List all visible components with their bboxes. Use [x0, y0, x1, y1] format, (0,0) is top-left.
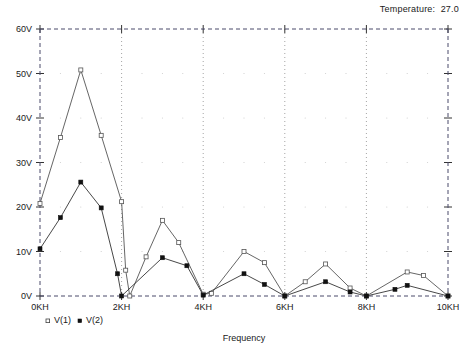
marker-filled-square: [242, 272, 246, 276]
xtick-label: 6KH: [276, 302, 294, 312]
marker-open-square: [348, 286, 352, 290]
marker-filled-square: [160, 256, 164, 260]
marker-filled-square: [79, 180, 83, 184]
marker-filled-square: [324, 280, 328, 284]
grid-dot: [305, 206, 306, 207]
grid-dot: [101, 117, 102, 118]
legend-marker-filled-square: [78, 319, 82, 323]
grid-dot: [325, 206, 326, 207]
grid-dot: [305, 162, 306, 163]
marker-open-square: [324, 262, 328, 266]
grid-dot: [243, 73, 244, 74]
ytick-label: 20V: [16, 202, 32, 212]
grid-dot: [162, 73, 163, 74]
ytick-label: 30V: [16, 158, 32, 168]
grid-dot: [325, 73, 326, 74]
ytick-label: 0V: [21, 291, 32, 301]
grid-dot: [345, 117, 346, 118]
marker-open-square: [242, 250, 246, 254]
ytick-label: 50V: [16, 69, 32, 79]
marker-filled-square: [58, 216, 62, 220]
grid-dot: [80, 117, 81, 118]
grid-dot: [141, 117, 142, 118]
marker-open-square: [144, 255, 148, 259]
marker-filled-square: [283, 294, 287, 298]
grid-dot: [407, 251, 408, 252]
grid-dot: [427, 206, 428, 207]
ytick-label: 60V: [16, 24, 32, 34]
ytick-label: 40V: [16, 113, 32, 123]
marker-filled-square: [262, 282, 266, 286]
grid-dot: [243, 117, 244, 118]
grid-dot: [182, 162, 183, 163]
grid-dot: [80, 73, 81, 74]
grid-dot: [101, 251, 102, 252]
grid-dot: [162, 206, 163, 207]
grid-dot: [345, 162, 346, 163]
grid-dot: [101, 73, 102, 74]
marker-open-square: [422, 274, 426, 278]
grid-dot: [305, 251, 306, 252]
xtick-label: 0KH: [31, 302, 49, 312]
grid-dot: [345, 73, 346, 74]
grid-dot: [427, 162, 428, 163]
marker-filled-square: [446, 294, 450, 298]
grid-dot: [141, 206, 142, 207]
grid-dot: [345, 206, 346, 207]
grid-dot: [264, 162, 265, 163]
marker-open-square: [79, 68, 83, 72]
grid-dot: [386, 206, 387, 207]
marker-open-square: [405, 270, 409, 274]
grid-dot: [345, 251, 346, 252]
marker-open-square: [99, 133, 103, 137]
grid-dot: [162, 162, 163, 163]
grid-dot: [305, 117, 306, 118]
marker-filled-square: [393, 287, 397, 291]
legend-label-V2[interactable]: V(2): [86, 315, 103, 325]
marker-filled-square: [38, 247, 42, 251]
grid-dot: [386, 73, 387, 74]
grid-dot: [141, 162, 142, 163]
series-line-V2: [40, 182, 448, 296]
grid-dot: [325, 251, 326, 252]
data-series-layer: [38, 68, 450, 298]
grid-layer: [60, 29, 428, 296]
grid-dot: [264, 73, 265, 74]
grid-dot: [141, 251, 142, 252]
grid-dot: [305, 73, 306, 74]
grid-dot: [60, 251, 61, 252]
series-line-V1: [40, 70, 448, 296]
marker-open-square: [262, 261, 266, 265]
marker-filled-square: [120, 294, 124, 298]
xtick-label: 2KH: [113, 302, 131, 312]
grid-dot: [427, 117, 428, 118]
grid-dot: [60, 73, 61, 74]
marker-filled-square: [99, 206, 103, 210]
legend-label-V1[interactable]: V(1): [54, 315, 71, 325]
marker-filled-square: [185, 264, 189, 268]
grid-dot: [141, 73, 142, 74]
xtick-label: 8KH: [358, 302, 376, 312]
marker-filled-square: [364, 294, 368, 298]
grid-dot: [223, 251, 224, 252]
grid-dot: [386, 162, 387, 163]
grid-dot: [427, 251, 428, 252]
grid-dot: [182, 206, 183, 207]
grid-dot: [243, 162, 244, 163]
grid-dot: [182, 73, 183, 74]
marker-open-square: [160, 218, 164, 222]
grid-dot: [386, 117, 387, 118]
xtick-label: 4KH: [194, 302, 212, 312]
grid-dot: [80, 251, 81, 252]
grid-dot: [264, 251, 265, 252]
x-axis-title: Frequency: [223, 333, 266, 343]
marker-open-square: [177, 241, 181, 245]
chart-legend: V(1)V(2): [46, 315, 103, 325]
marker-open-square: [128, 294, 132, 298]
grid-dot: [80, 206, 81, 207]
temperature-label: Temperature: 27.0: [380, 4, 459, 14]
grid-dot: [407, 117, 408, 118]
grid-dot: [223, 206, 224, 207]
marker-filled-square: [348, 290, 352, 294]
grid-dot: [162, 117, 163, 118]
